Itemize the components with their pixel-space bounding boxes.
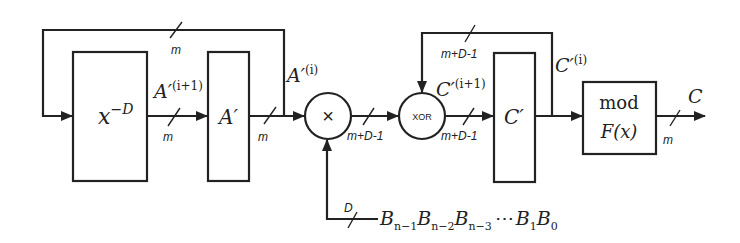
bus-width-output: m — [663, 133, 673, 147]
delay-to-a-wire: m A′(i+1) — [147, 79, 207, 144]
mult-to-xor-wire: m+D-1 — [347, 108, 398, 143]
c-register: C′ — [494, 53, 535, 182]
output-wire: m C — [656, 85, 705, 147]
bus-width-tick — [670, 110, 680, 126]
bus-width-delay-to-a: m — [163, 130, 173, 144]
delay-block: x−D — [73, 52, 147, 181]
signal-a-current: A′(i) — [285, 63, 318, 86]
bus-width-xor-to-c: m+D-1 — [441, 129, 477, 143]
bus-width-b-input: D — [344, 201, 353, 215]
signal-output: C — [688, 85, 703, 107]
reduction-block: mod F(x) — [583, 82, 656, 154]
multiply-icon: × — [322, 105, 334, 127]
a-register: A′ — [208, 52, 249, 181]
block-diagram: m x−D m A′(i+1) A′ m A′(i) × D Bn−1Bn−2B… — [0, 0, 740, 243]
bus-width-c-feedback: m+D-1 — [441, 47, 477, 61]
xor-label: XOR — [412, 112, 432, 122]
signal-a-next: A′(i+1) — [152, 79, 203, 102]
signal-b-digits: Bn−1Bn−2Bn−3⋯B1B0 — [379, 207, 558, 233]
reduction-label-mod: mod — [599, 92, 638, 113]
signal-c-current: C′(i) — [555, 53, 587, 76]
a-register-label: A′ — [217, 105, 238, 129]
bus-width-a-feedback: m — [171, 43, 181, 57]
c-register-label: C′ — [504, 105, 524, 129]
bus-width-a-to-mult: m — [258, 130, 268, 144]
signal-c-next: C′(i+1) — [436, 77, 486, 100]
reduction-label-poly: F(x) — [600, 121, 638, 142]
multiplier-node: × — [305, 93, 351, 139]
bus-width-mult-to-xor: m+D-1 — [347, 129, 383, 143]
